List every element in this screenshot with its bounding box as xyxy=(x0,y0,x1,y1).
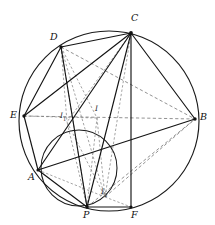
point-label-I1: I1 xyxy=(60,112,66,122)
segment-I-I2 xyxy=(97,118,105,197)
vertex-dot-A xyxy=(36,168,39,171)
segment-D-B xyxy=(61,47,195,119)
segment-C-P xyxy=(87,33,131,207)
vertex-dot-C xyxy=(129,31,133,35)
segment-C-B xyxy=(131,33,195,119)
segment-D-E xyxy=(24,47,61,116)
geometry-figure: C D E B A P F I I1 I2 xyxy=(0,0,215,225)
point-label-I: I xyxy=(95,105,98,113)
segment-C-A xyxy=(38,33,131,170)
segment-D-P xyxy=(61,47,87,207)
point-label-I2: I2 xyxy=(101,188,107,198)
segment-I2-B xyxy=(105,119,195,197)
incenter-I1-subscript: 1 xyxy=(63,116,66,122)
segment-D-I2 xyxy=(61,47,105,197)
solid-chords xyxy=(24,33,195,207)
point-label-A: A xyxy=(28,172,35,182)
point-label-P: P xyxy=(83,210,89,220)
point-label-C: C xyxy=(131,13,138,23)
vertex-dot-D xyxy=(59,45,62,48)
point-label-B: B xyxy=(200,112,207,122)
point-label-E: E xyxy=(10,110,17,120)
incenter-I2-subscript: 2 xyxy=(104,192,107,198)
geometry-canvas xyxy=(0,0,215,225)
vertex-dot-B xyxy=(193,117,196,120)
vertex-dot-E xyxy=(22,114,25,117)
point-label-F: F xyxy=(131,210,138,220)
segment-I2-F xyxy=(105,197,131,207)
segment-C-I2 xyxy=(105,33,131,197)
segment-E-A xyxy=(24,116,38,170)
point-label-D: D xyxy=(50,32,58,42)
segment-D-C xyxy=(61,33,131,47)
incenter-I-glyph: I xyxy=(95,104,98,113)
